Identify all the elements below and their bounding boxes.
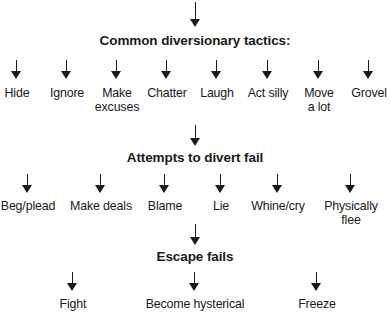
branch-arrow-lie-icon bbox=[215, 174, 226, 194]
branch-label-make-excuses: Make excuses bbox=[95, 86, 139, 114]
entry-down-arrow-icon bbox=[190, 2, 201, 28]
branch-arrow-ignore-icon bbox=[61, 60, 72, 80]
branch-arrow-chatter-icon bbox=[161, 60, 172, 80]
branch-label-freeze: Freeze bbox=[298, 297, 336, 311]
stage-2-heading: Attempts to divert fail bbox=[0, 150, 390, 165]
branch-arrow-laugh-icon bbox=[211, 60, 222, 80]
branch-label-whine-cry: Whine/cry bbox=[251, 199, 305, 213]
branch-arrow-hide-icon bbox=[11, 60, 22, 80]
branch-arrow-fight-icon bbox=[67, 272, 78, 292]
branch-arrow-make-excuses-icon bbox=[111, 60, 122, 80]
branch-arrow-freeze-icon bbox=[311, 272, 322, 292]
branch-label-beg-plead: Beg/plead bbox=[1, 199, 55, 213]
connector-arrow-to-attempts-fail-icon bbox=[190, 125, 201, 147]
branch-label-fight: Fight bbox=[60, 297, 87, 311]
branch-label-hide: Hide bbox=[5, 86, 30, 100]
branch-arrow-whine-cry-icon bbox=[272, 174, 283, 194]
branch-arrow-make-deals-icon bbox=[95, 174, 106, 194]
branch-label-laugh: Laugh bbox=[200, 86, 234, 100]
branch-label-become-hysterical: Become hysterical bbox=[146, 297, 245, 311]
branch-arrow-blame-icon bbox=[159, 174, 170, 194]
branch-arrow-move-a-lot-icon bbox=[313, 60, 324, 80]
branch-label-grovel: Grovel bbox=[351, 86, 387, 100]
branch-label-blame: Blame bbox=[148, 199, 182, 213]
branch-label-physically-flee: Physically flee bbox=[324, 199, 378, 227]
branch-label-chatter: Chatter bbox=[147, 86, 187, 100]
branch-arrow-become-hysterical-icon bbox=[189, 272, 200, 292]
branch-label-lie: Lie bbox=[213, 199, 229, 213]
stage-3-heading: Escape fails bbox=[0, 249, 390, 264]
branch-label-act-silly: Act silly bbox=[248, 86, 289, 100]
branch-label-make-deals: Make deals bbox=[70, 199, 132, 213]
branch-arrow-physically-flee-icon bbox=[345, 174, 356, 194]
flowchart-diagram: Common diversionary tactics: Hide Ignore… bbox=[0, 0, 390, 315]
branch-arrow-grovel-icon bbox=[363, 60, 374, 80]
branch-arrow-act-silly-icon bbox=[262, 60, 273, 80]
stage-1-heading: Common diversionary tactics: bbox=[0, 33, 390, 48]
branch-arrow-beg-plead-icon bbox=[22, 174, 33, 194]
connector-arrow-to-escape-fails-icon bbox=[190, 224, 201, 246]
branch-label-ignore: Ignore bbox=[50, 86, 84, 100]
branch-label-move-a-lot: Move a lot bbox=[304, 86, 334, 114]
